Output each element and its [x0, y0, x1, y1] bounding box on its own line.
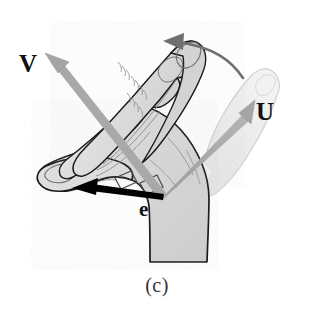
vector-label-v: V [19, 51, 37, 76]
figure-caption: (c) [0, 274, 314, 297]
vector-label-e: e [139, 199, 148, 220]
vector-label-u: U [256, 99, 274, 124]
figure-container: V U e (c) [0, 0, 314, 324]
